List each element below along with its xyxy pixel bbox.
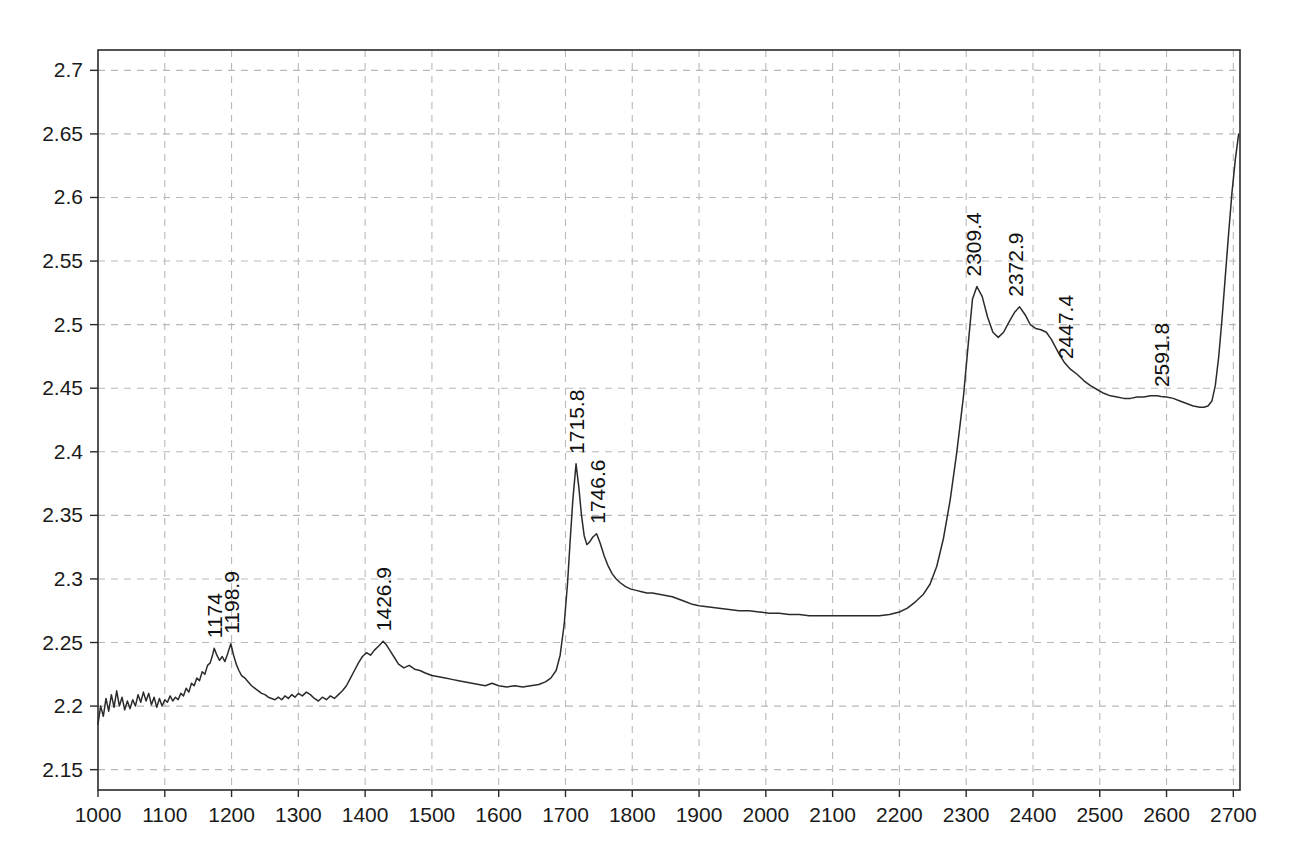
- peak-label: 2591.8: [1150, 323, 1173, 387]
- peak-label: 1746.6: [586, 460, 609, 524]
- x-tick-label: 1700: [542, 803, 589, 826]
- x-tick-label: 2200: [876, 803, 923, 826]
- x-tick-label: 2000: [742, 803, 789, 826]
- y-tick-label: 2.2: [54, 694, 83, 717]
- y-tick-label: 2.45: [42, 376, 83, 399]
- spectrum-chart: 1000110012001300140015001600170018001900…: [0, 0, 1301, 856]
- y-tick-label: 2.15: [42, 758, 83, 781]
- x-tick-label: 1100: [142, 803, 187, 826]
- x-tick-label: 1500: [409, 803, 456, 826]
- peak-label: 1198.9: [220, 571, 243, 634]
- y-tick-label: 2.25: [42, 631, 83, 654]
- x-tick-label: 2500: [1076, 803, 1123, 826]
- x-tick-label: 1000: [75, 803, 122, 826]
- peak-label: 1715.8: [565, 390, 588, 454]
- y-tick-label: 2.6: [54, 185, 83, 208]
- x-tick-label: 2300: [943, 803, 990, 826]
- x-tick-label: 1300: [275, 803, 322, 826]
- y-tick-label: 2.3: [54, 567, 83, 590]
- x-tick-label: 1800: [609, 803, 656, 826]
- y-tick-label: 2.5: [54, 313, 83, 336]
- y-tick-label: 2.65: [42, 122, 83, 145]
- peak-label: 1426.9: [372, 567, 395, 631]
- peak-label: 2309.4: [962, 212, 985, 277]
- x-tick-label: 2100: [809, 803, 856, 826]
- x-tick-label: 1400: [342, 803, 389, 826]
- y-tick-label: 2.55: [42, 249, 83, 272]
- chart-background: [0, 0, 1301, 856]
- x-tick-label: 1600: [475, 803, 522, 826]
- x-tick-label: 1900: [676, 803, 723, 826]
- x-tick-label: 2400: [1010, 803, 1057, 826]
- y-tick-label: 2.4: [54, 440, 84, 463]
- y-tick-label: 2.35: [42, 503, 83, 526]
- peak-label: 2447.4: [1054, 295, 1077, 360]
- x-tick-label: 1200: [208, 803, 255, 826]
- x-tick-label: 2600: [1143, 803, 1190, 826]
- chart-canvas: 1000110012001300140015001600170018001900…: [0, 0, 1301, 856]
- x-tick-label: 2700: [1210, 803, 1257, 826]
- peak-label: 2372.9: [1004, 233, 1027, 297]
- y-tick-label: 2.7: [54, 58, 83, 81]
